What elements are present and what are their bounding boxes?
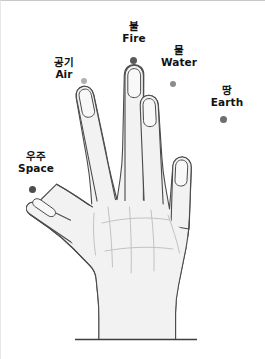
label-space: 우주 Space (11, 151, 61, 175)
label-air-korean: 공기 (43, 57, 85, 68)
dot-earth (220, 116, 227, 123)
dot-air (81, 78, 87, 84)
label-earth-korean: 땅 (205, 85, 249, 96)
label-fire-korean: 불 (113, 21, 155, 32)
middle-finger-nail (128, 69, 141, 98)
label-space-korean: 우주 (11, 151, 61, 162)
dot-water (170, 81, 176, 87)
label-water-korean: 물 (156, 45, 202, 56)
dot-fire (130, 57, 137, 64)
label-water: 물 Water (156, 45, 202, 69)
hand-back-body (69, 200, 189, 340)
label-air-english: Air (43, 69, 85, 80)
label-fire-english: Fire (113, 33, 155, 44)
label-space-english: Space (11, 163, 61, 174)
label-air: 공기 Air (43, 57, 85, 81)
ring-finger-nail (143, 99, 156, 127)
label-fire: 불 Fire (113, 21, 155, 45)
label-water-english: Water (156, 57, 202, 68)
dot-space (29, 186, 36, 193)
hand-elements-figure: 불 Fire 물 Water 공기 Air 땅 Earth 우주 Space (0, 0, 265, 359)
hand-illustration (1, 1, 265, 359)
label-earth: 땅 Earth (205, 85, 249, 109)
little-finger-nail (175, 160, 188, 186)
label-earth-english: Earth (205, 97, 249, 108)
